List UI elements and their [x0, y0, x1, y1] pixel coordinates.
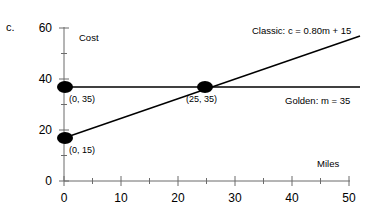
- y-axis-title: Cost: [79, 33, 99, 43]
- chart-figure: c. 60 40 20 0 0 10 20 30 40 50 Cost Mile…: [0, 0, 372, 215]
- point-label-25-35: (25, 35): [186, 95, 217, 104]
- x-tick-label-0: 0: [49, 192, 79, 204]
- x-tick-label-30: 30: [220, 192, 250, 204]
- point-label-0-15: (0, 15): [69, 146, 95, 155]
- x-tick-label-10: 10: [106, 192, 136, 204]
- part-label: c.: [6, 22, 15, 33]
- x-tick-label-50: 50: [334, 192, 364, 204]
- data-point-marker-0-35: [57, 81, 73, 93]
- x-tick-label-20: 20: [163, 192, 193, 204]
- x-tick-label-40: 40: [277, 192, 307, 204]
- y-tick-label-60: 60: [18, 22, 52, 34]
- data-point-marker-0-15: [57, 132, 73, 144]
- x-axis-title: Miles: [317, 159, 339, 169]
- y-tick-label-40: 40: [18, 73, 52, 85]
- point-label-0-35: (0, 35): [69, 95, 95, 104]
- y-tick-label-20: 20: [18, 124, 52, 136]
- series-annotation-golden: Golden: m = 35: [285, 96, 350, 106]
- data-point-marker-25-35: [197, 81, 213, 93]
- y-tick-label-0: 0: [18, 175, 52, 187]
- series-annotation-classic: Classic: c = 0.80m + 15: [252, 26, 351, 36]
